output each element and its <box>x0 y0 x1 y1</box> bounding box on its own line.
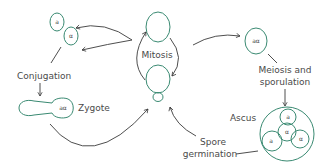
bud <box>153 93 163 102</box>
germination-leader-line <box>236 151 258 154</box>
spore-germination-label-line2: germination <box>183 149 238 159</box>
arrow-mitosis-to-alpha <box>82 40 132 50</box>
arrow-mitosis-to-diploid <box>193 35 240 45</box>
zygote-label: Zygote <box>78 103 110 113</box>
ascus-label: Ascus <box>230 113 256 123</box>
arrow-zygote-to-mitosis <box>50 109 148 146</box>
mitosis-top-cell <box>146 12 170 42</box>
spore-left-symbol: a <box>269 137 273 144</box>
haploid-alpha-cell: α <box>64 27 78 45</box>
conjugation-label: Conjugation <box>17 71 71 81</box>
ascus: a α α a <box>260 107 314 161</box>
spore-right-symbol: α <box>299 135 303 142</box>
zygote-symbol: aα <box>59 104 67 111</box>
haploid-a-symbol: a <box>55 18 59 25</box>
zygote-cell: aα <box>19 98 73 118</box>
diploid-symbol: aα <box>252 37 260 44</box>
mitosis-label: Mitosis <box>141 50 172 60</box>
meiosis-leader-line <box>268 54 277 63</box>
conjugation-leader-line <box>51 47 61 63</box>
meiosis-label-line1: Meiosis and <box>259 65 312 75</box>
spore-center-symbol: α <box>285 128 289 135</box>
arrow-mitosis-to-a <box>76 26 132 40</box>
haploid-a-cell: a <box>50 13 64 31</box>
meiosis-label-line2: sporulation <box>260 77 311 87</box>
spore-top-symbol: a <box>286 113 290 120</box>
spore-germination-label-line1: Spore <box>200 137 226 147</box>
yeast-life-cycle-diagram: a α Conjugation aα Zygote Mitosis aα Mei… <box>0 0 322 165</box>
haploid-alpha-symbol: α <box>69 32 73 39</box>
mitosis-bottom-cell <box>146 65 170 102</box>
diploid-cell: aα <box>245 28 267 54</box>
arrow-germination-to-mitosis <box>170 107 196 136</box>
